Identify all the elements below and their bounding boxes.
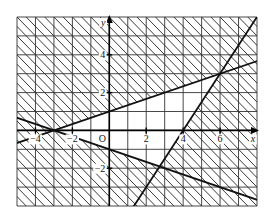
origin-label: O xyxy=(99,133,106,144)
hatch-line xyxy=(0,17,17,206)
y-tick-label: 2 xyxy=(100,87,105,98)
hatch-line xyxy=(0,17,8,206)
hatch-line xyxy=(266,17,269,206)
y-axis-label: y xyxy=(100,17,106,28)
x-tick-label: −2 xyxy=(67,133,78,144)
y-tick-label: 4 xyxy=(100,49,105,60)
x-tick-label: 4 xyxy=(181,133,186,144)
graph: −4−224642−2Oxy xyxy=(0,0,269,220)
hatch-line xyxy=(257,17,269,206)
y-tick-label: −2 xyxy=(95,163,106,174)
x-tick-label: 6 xyxy=(218,133,223,144)
x-tick-label: −4 xyxy=(30,133,41,144)
x-axis-label: x xyxy=(250,133,256,144)
x-tick-label: 2 xyxy=(144,133,149,144)
